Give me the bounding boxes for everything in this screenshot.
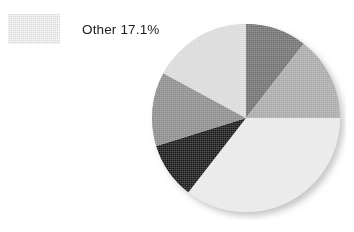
chart-legend: Other 17.1% <box>8 14 159 44</box>
legend-swatch-other-icon <box>8 14 60 44</box>
legend-label-other: Other 17.1% <box>82 22 159 37</box>
pie-graphic <box>150 20 346 220</box>
pie-slices-group <box>152 24 340 212</box>
pie-svg <box>150 20 346 220</box>
pie-chart-figure: Other 17.1% <box>0 0 354 232</box>
legend-item-other: Other 17.1% <box>8 14 159 44</box>
